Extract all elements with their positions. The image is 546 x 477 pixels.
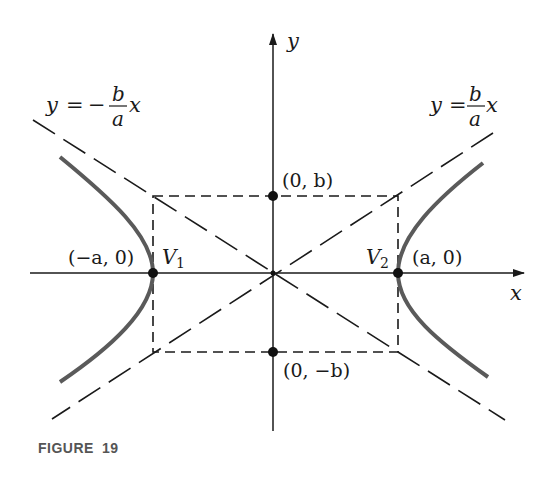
- asymptote-positive-label: y = b a x: [429, 82, 498, 131]
- caption-number: 19: [102, 440, 119, 456]
- svg-text:=: =: [66, 93, 84, 117]
- vertex-v2-point: [393, 268, 403, 278]
- y-axis-label: y: [286, 29, 300, 53]
- asymptote-negative-label: y = − b a x: [45, 82, 141, 131]
- svg-text:x: x: [129, 93, 141, 117]
- svg-text:2: 2: [380, 255, 389, 271]
- label-a-0: (a, 0): [412, 246, 462, 268]
- label-0-neg-b: (0, −b): [283, 359, 350, 381]
- point-0-b: [268, 191, 278, 201]
- vertex-v1-point: [148, 268, 158, 278]
- caption-label: FIGURE: [38, 440, 94, 456]
- vertex-v2-label: V 2: [366, 245, 389, 271]
- asymptote-negative-slope: [33, 120, 505, 420]
- svg-text:b: b: [469, 82, 482, 106]
- hyperbola-right-branch: [398, 163, 488, 377]
- point-0-neg-b: [268, 347, 278, 357]
- svg-text:x: x: [486, 93, 498, 117]
- svg-text:1: 1: [176, 255, 185, 271]
- x-axis-label: x: [510, 281, 522, 305]
- hyperbola-diagram: y x y = − b a x y = b a x (0, b) (0, −b)…: [0, 0, 546, 477]
- svg-text:−: −: [88, 93, 106, 117]
- svg-text:a: a: [469, 107, 481, 131]
- svg-text:y: y: [429, 93, 443, 117]
- vertex-v1-label: V 1: [162, 245, 185, 271]
- origin-point: [271, 271, 276, 276]
- hyperbola-left-branch: [60, 157, 153, 382]
- svg-text:a: a: [112, 107, 124, 131]
- svg-text:=: =: [449, 93, 467, 117]
- label-0-b: (0, b): [282, 169, 333, 191]
- figure-caption: FIGURE19: [38, 440, 118, 456]
- svg-text:b: b: [112, 82, 125, 106]
- svg-text:y: y: [45, 93, 59, 117]
- label-neg-a-0: (−a, 0): [68, 246, 134, 268]
